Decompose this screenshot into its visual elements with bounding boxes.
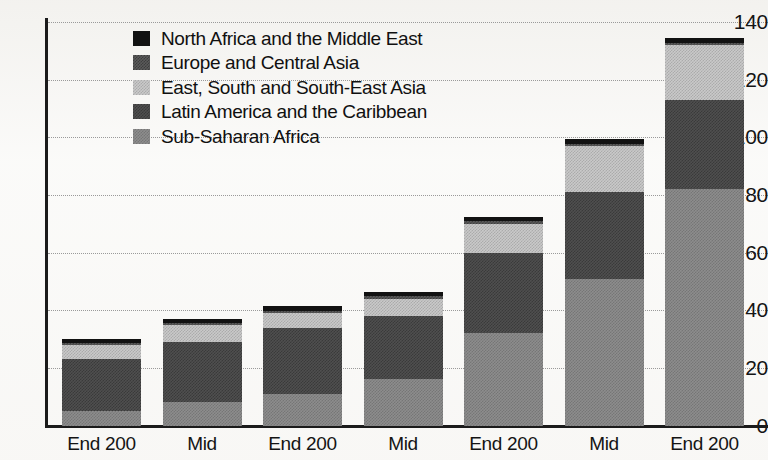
light-gray-dither-swatch xyxy=(133,80,150,95)
bar-segment xyxy=(565,146,644,192)
bar-segment xyxy=(163,342,242,403)
bar-segment xyxy=(464,333,543,425)
gridline xyxy=(48,253,768,254)
bar-segment xyxy=(364,296,443,298)
legend-item-label: North Africa and the Middle East xyxy=(161,29,422,48)
legend-item: Europe and Central Asia xyxy=(133,51,427,76)
x-axis-tick-label: End 200 xyxy=(645,434,765,453)
bar-segment xyxy=(565,279,644,426)
bar-segment xyxy=(565,144,644,146)
bar-segment xyxy=(62,411,141,425)
solid-black-swatch xyxy=(133,31,150,46)
bar-segment xyxy=(565,192,644,278)
bar-segment xyxy=(263,328,342,394)
bar-segment xyxy=(464,221,543,223)
bar-stack xyxy=(665,38,744,426)
bar-segment xyxy=(464,253,543,334)
legend-item-label: Latin America and the Caribbean xyxy=(161,102,427,121)
bar-stack xyxy=(464,217,543,426)
bar-segment xyxy=(62,359,141,411)
bar-segment xyxy=(665,43,744,45)
bar-segment xyxy=(364,379,443,425)
bar-stack xyxy=(163,319,242,426)
bar-segment xyxy=(263,311,342,313)
bar-stack xyxy=(565,139,644,426)
legend-item: Latin America and the Caribbean xyxy=(133,100,427,125)
bar-segment xyxy=(364,292,443,297)
bar-segment xyxy=(565,139,644,144)
bar-segment xyxy=(263,394,342,426)
gridline xyxy=(48,22,768,23)
mid-dark-dither-swatch xyxy=(133,55,150,70)
legend-item: Sub-Saharan Africa xyxy=(133,124,427,149)
bar-segment xyxy=(263,306,342,311)
legend-item-label: Europe and Central Asia xyxy=(161,53,359,72)
medium-gray-dither-swatch xyxy=(133,129,150,144)
bar-segment xyxy=(364,299,443,316)
bar-segment xyxy=(62,343,141,345)
bar-stack xyxy=(364,291,443,425)
y-axis-tick-label: 140 xyxy=(726,11,768,32)
chart-legend: North Africa and the Middle EastEurope a… xyxy=(133,26,427,149)
bar-segment xyxy=(62,345,141,359)
bar-segment xyxy=(665,189,744,425)
legend-item-label: Sub-Saharan Africa xyxy=(161,127,319,146)
legend-item-label: East, South and South-East Asia xyxy=(161,78,426,97)
bar-segment xyxy=(263,313,342,327)
bar-segment xyxy=(665,38,744,43)
bar-segment xyxy=(665,100,744,189)
legend-item: East, South and South-East Asia xyxy=(133,75,427,100)
bar-segment xyxy=(464,224,543,253)
y-axis-line xyxy=(45,18,48,428)
bar-segment xyxy=(665,45,744,100)
bar-segment xyxy=(62,339,141,343)
gridline xyxy=(48,195,768,196)
bar-segment xyxy=(163,325,242,342)
bar-segment xyxy=(163,402,242,425)
bar-segment xyxy=(464,217,543,222)
bar-stack xyxy=(263,306,342,426)
dark-gray-dither-swatch xyxy=(133,104,150,119)
bar-segment xyxy=(364,316,443,379)
stacked-bar-chart: 020406080100120140 End 200MidEnd 200MidE… xyxy=(0,0,768,460)
bar-stack xyxy=(62,339,141,425)
bar-segment xyxy=(163,323,242,325)
legend-item: North Africa and the Middle East xyxy=(133,26,427,51)
bar-segment xyxy=(163,319,242,323)
